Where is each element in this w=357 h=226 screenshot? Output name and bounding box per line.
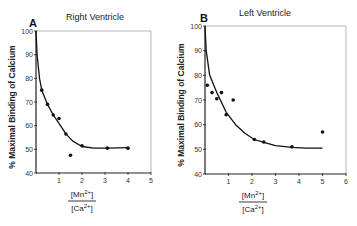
x-label-numerator: [Mn2+] bbox=[242, 190, 264, 200]
data-point bbox=[224, 113, 228, 117]
panel-title: Left Ventricle bbox=[239, 8, 291, 18]
data-point bbox=[210, 91, 214, 95]
x-tick-label: 3 bbox=[103, 177, 107, 184]
y-tick-label: 40 bbox=[194, 171, 202, 178]
figure: 40506070809010012345ARight Ventricle% Ma… bbox=[0, 0, 357, 226]
x-tick-label: 6 bbox=[344, 178, 348, 185]
data-point bbox=[57, 117, 61, 121]
data-point bbox=[46, 103, 50, 107]
y-axis-label: % Maximal Binding of Calcium bbox=[7, 45, 17, 169]
panel-title: Right Ventricle bbox=[66, 12, 124, 22]
y-tick-label: 80 bbox=[25, 75, 33, 82]
data-point bbox=[40, 88, 44, 92]
data-point bbox=[253, 138, 257, 142]
panel-a: 40506070809010012345ARight Ventricle% Ma… bbox=[7, 12, 153, 213]
y-tick-label: 90 bbox=[194, 47, 202, 54]
x-tick-label: 2 bbox=[250, 178, 254, 185]
y-tick-label: 70 bbox=[25, 99, 33, 106]
x-tick-label: 4 bbox=[126, 177, 130, 184]
data-point bbox=[220, 91, 224, 95]
y-tick-label: 70 bbox=[194, 97, 202, 104]
x-label-numerator: [Mn2+] bbox=[71, 189, 93, 199]
data-point bbox=[106, 146, 110, 150]
panel-label: A bbox=[29, 17, 37, 29]
data-point bbox=[51, 113, 55, 117]
data-point bbox=[206, 83, 210, 87]
fit-curve bbox=[205, 26, 323, 148]
y-axis-label: % Maximal Binding of Calcium bbox=[176, 43, 186, 167]
y-tick-label: 50 bbox=[25, 146, 33, 153]
x-tick-label: 4 bbox=[297, 178, 301, 185]
y-tick-label: 40 bbox=[25, 170, 33, 177]
x-tick-label: 3 bbox=[274, 178, 278, 185]
data-point bbox=[126, 146, 130, 150]
x-tick-label: 1 bbox=[227, 178, 231, 185]
panel-b: 405060708090100123456BLeft Ventricle% Ma… bbox=[176, 8, 348, 214]
y-tick-label: 60 bbox=[25, 122, 33, 129]
y-tick-label: 90 bbox=[25, 51, 33, 58]
x-label-denominator: [Ca2+] bbox=[71, 203, 93, 213]
data-point bbox=[262, 140, 266, 144]
data-point bbox=[64, 132, 68, 136]
fit-curve bbox=[36, 31, 128, 148]
panel-label: B bbox=[200, 12, 208, 24]
y-tick-label: 60 bbox=[194, 121, 202, 128]
y-tick-label: 80 bbox=[194, 72, 202, 79]
x-tick-label: 2 bbox=[80, 177, 84, 184]
x-tick-label: 5 bbox=[149, 177, 153, 184]
data-point bbox=[290, 145, 294, 149]
data-point bbox=[321, 130, 325, 134]
data-point bbox=[215, 97, 219, 101]
data-point bbox=[80, 144, 84, 148]
x-label-denominator: [Ca2+] bbox=[242, 204, 264, 214]
data-point bbox=[69, 153, 73, 157]
x-tick-label: 5 bbox=[321, 178, 325, 185]
x-tick-label: 1 bbox=[57, 177, 61, 184]
y-tick-label: 50 bbox=[194, 146, 202, 153]
data-point bbox=[231, 98, 235, 102]
